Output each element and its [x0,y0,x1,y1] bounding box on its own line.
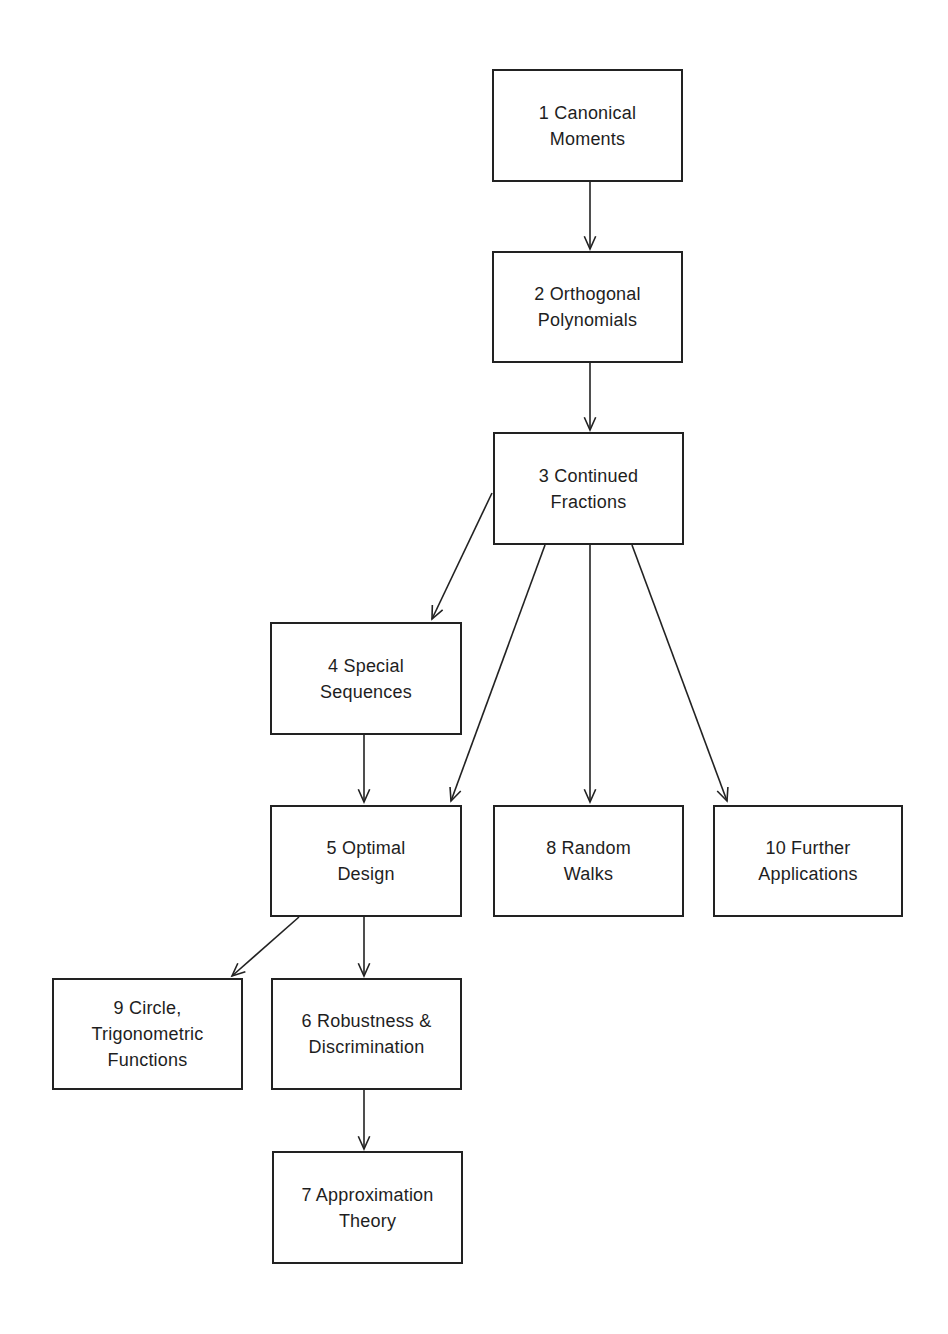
chapter-label: 1 Canonical Moments [539,100,636,152]
arrow-n2-to-n3 [584,363,595,430]
chapter-label: 4 Special Sequences [320,653,412,705]
arrow-n3-to-n4 [432,493,492,619]
chapter-label: 10 Further Applications [758,835,857,887]
arrow-n3-to-n5 [450,545,545,801]
chapter-box-8: 8 Random Walks [493,805,684,917]
chapter-box-6: 6 Robustness & Discrimination [271,978,462,1090]
chapter-box-9: 9 Circle, Trigonometric Functions [52,978,243,1090]
arrow-n6-to-n7 [358,1090,369,1149]
arrow-n4-to-n5 [358,735,369,802]
arrow-n1-to-n2 [584,182,595,249]
arrow-n3-to-n8 [584,545,595,802]
edges-layer [0,0,948,1334]
chapter-label: 2 Orthogonal Polynomials [534,281,640,333]
chapter-label: 6 Robustness & Discrimination [302,1008,432,1060]
chapter-box-5: 5 Optimal Design [270,805,462,917]
chapter-label: 3 Continued Fractions [539,463,638,515]
chapter-box-1: 1 Canonical Moments [492,69,683,182]
arrow-n5-to-n9 [232,917,299,976]
chapter-label: 9 Circle, Trigonometric Functions [92,995,204,1073]
chapter-label: 5 Optimal Design [327,835,406,887]
chapter-box-10: 10 Further Applications [713,805,903,917]
chapter-box-2: 2 Orthogonal Polynomials [492,251,683,363]
chapter-box-7: 7 Approximation Theory [272,1151,463,1264]
chapter-label: 8 Random Walks [546,835,631,887]
chapter-box-3: 3 Continued Fractions [493,432,684,545]
chapter-label: 7 Approximation Theory [301,1182,433,1234]
chapter-box-4: 4 Special Sequences [270,622,462,735]
chapter-dependency-diagram: 1 Canonical Moments2 Orthogonal Polynomi… [0,0,948,1334]
arrow-n5-to-n6 [358,917,369,976]
arrow-n3-to-n10 [632,545,728,801]
